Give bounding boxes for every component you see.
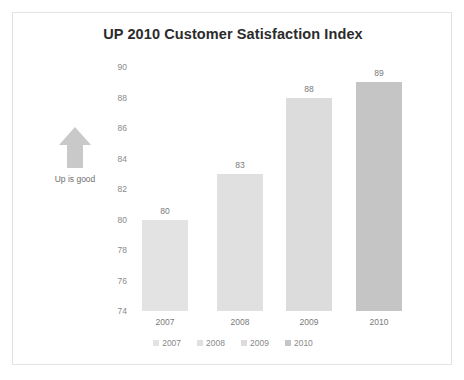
x-axis-category-label: 2007 <box>142 317 188 327</box>
bar[interactable] <box>356 82 402 311</box>
x-axis-category-label: 2010 <box>356 317 402 327</box>
y-axis-tick: 74 <box>101 306 127 316</box>
y-axis-tick: 82 <box>101 184 127 194</box>
legend-item[interactable]: 2008 <box>197 338 225 348</box>
bar-group: 832008 <box>217 67 263 311</box>
bar-value-label: 83 <box>217 160 263 170</box>
chart-legend: 2007200820092010 <box>13 338 453 348</box>
legend-item[interactable]: 2009 <box>241 338 269 348</box>
bar[interactable] <box>217 174 263 311</box>
y-axis-tick: 76 <box>101 276 127 286</box>
legend-label: 2010 <box>294 338 313 348</box>
legend-swatch <box>153 340 159 346</box>
bar-group: 892010 <box>356 67 402 311</box>
legend-label: 2007 <box>162 338 181 348</box>
legend-swatch <box>241 340 247 346</box>
bar-value-label: 88 <box>286 84 332 94</box>
bar-group: 802007 <box>142 67 188 311</box>
x-axis-category-label: 2009 <box>286 317 332 327</box>
bar-group: 882009 <box>286 67 332 311</box>
arrow-up-icon <box>58 126 92 169</box>
legend-swatch <box>197 340 203 346</box>
y-axis-tick: 80 <box>101 215 127 225</box>
y-axis-tick: 88 <box>101 93 127 103</box>
y-axis: 908886848280787674 <box>101 67 127 311</box>
y-axis-tick: 86 <box>101 123 127 133</box>
bar-value-label: 80 <box>142 206 188 216</box>
bar[interactable] <box>286 98 332 312</box>
bar[interactable] <box>142 220 188 312</box>
y-axis-tick: 90 <box>101 62 127 72</box>
bar-value-label: 89 <box>356 68 402 78</box>
legend-swatch <box>285 340 291 346</box>
x-axis-category-label: 2008 <box>217 317 263 327</box>
plot-area: 802007832008882009892010 <box>131 67 421 311</box>
legend-item[interactable]: 2007 <box>153 338 181 348</box>
y-axis-tick: 78 <box>101 245 127 255</box>
y-axis-tick: 84 <box>101 154 127 164</box>
legend-label: 2009 <box>250 338 269 348</box>
chart-card: UP 2010 Customer Satisfaction Index Up i… <box>12 12 452 365</box>
chart-title: UP 2010 Customer Satisfaction Index <box>13 26 453 42</box>
legend-item[interactable]: 2010 <box>285 338 313 348</box>
legend-label: 2008 <box>206 338 225 348</box>
